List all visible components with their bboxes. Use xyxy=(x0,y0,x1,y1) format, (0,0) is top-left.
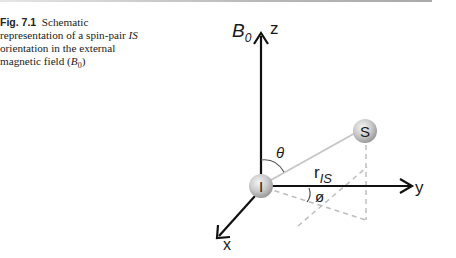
x-axis-label: x xyxy=(223,236,231,253)
spin-pair-diagram: I S B0 z y x θ ø rIS xyxy=(0,0,456,258)
x-axis xyxy=(219,196,255,236)
r-is-label: rIS xyxy=(314,163,332,186)
phi-arc xyxy=(307,188,310,202)
theta-label: θ xyxy=(276,144,284,161)
theta-arc xyxy=(261,160,284,172)
spin-s-label: S xyxy=(360,123,370,140)
s-projection-line xyxy=(298,167,367,226)
spin-i-label: I xyxy=(259,178,263,195)
y-axis-label: y xyxy=(415,178,424,197)
phi-label: ø xyxy=(315,188,324,205)
b0-label: B0 xyxy=(232,20,252,45)
z-axis-label: z xyxy=(270,19,279,38)
